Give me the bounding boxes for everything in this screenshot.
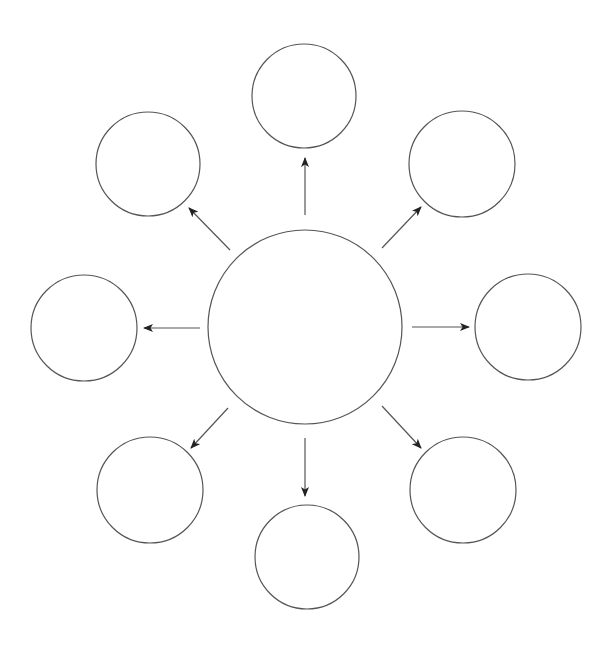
node-right <box>475 274 581 380</box>
node-right-circle <box>475 274 581 380</box>
node-top-left-circle <box>96 112 200 216</box>
node-top-right-circle <box>409 111 515 217</box>
node-left <box>31 275 137 381</box>
arrow-top-left-icon <box>189 208 230 250</box>
node-top-left <box>96 112 200 216</box>
hub-node-circle <box>208 230 402 424</box>
node-bottom-left-circle <box>97 437 203 543</box>
node-bottom-left <box>97 437 203 543</box>
hub-spoke-diagram <box>0 0 610 650</box>
node-top-right <box>409 111 515 217</box>
arrow-bottom-left-icon <box>191 408 228 448</box>
arrows-layer <box>144 158 469 496</box>
arrow-top-right-icon <box>382 207 421 248</box>
node-left-circle <box>31 275 137 381</box>
hub-node <box>208 230 402 424</box>
node-bottom <box>255 505 359 609</box>
node-bottom-right-circle <box>410 437 516 543</box>
arrow-bottom-right-icon <box>382 406 421 448</box>
node-bottom-circle <box>255 505 359 609</box>
nodes-layer <box>31 44 581 609</box>
node-bottom-right <box>410 437 516 543</box>
node-top <box>252 44 356 148</box>
node-top-circle <box>252 44 356 148</box>
